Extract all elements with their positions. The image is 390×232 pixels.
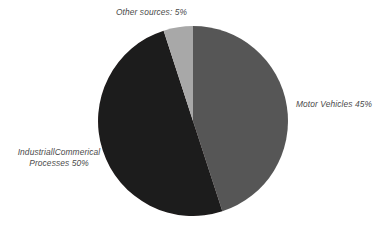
pie-label-industrial-line-2: Processes 50% (9, 158, 109, 169)
pie-chart-graphic (0, 0, 390, 232)
pie-label-motor-vehicles: Motor Vehicles 45% (296, 99, 372, 110)
pie-chart-figure: Other sources: 5% Motor Vehicles 45% Ind… (0, 0, 390, 232)
pie-label-industrial-line-1: IndustriallCommerical (9, 147, 109, 158)
pie-label-industrial-commercial: IndustriallCommerical Processes 50% (9, 147, 109, 169)
pie-label-other-sources: Other sources: 5% (116, 7, 187, 18)
